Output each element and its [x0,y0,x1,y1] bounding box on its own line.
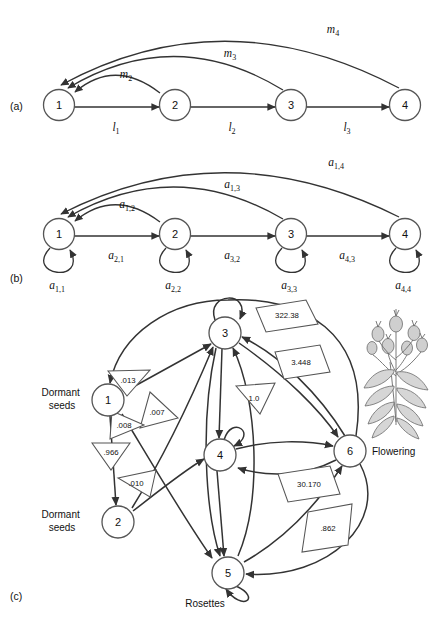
panel-c-node-4-label: 4 [217,449,223,461]
panel-c-node-6-label: 6 [347,445,353,457]
stage-label-flowering: Flowering [372,446,415,457]
flowering-plant-illustration [364,309,428,439]
stage-label-rosettes: Rosettes [185,598,224,609]
value-shape-010: .010 [118,470,156,497]
value-shape-30170: 30.170 [278,466,340,502]
stage-label-dormant-seeds-1: Dormant seeds [41,387,82,411]
panel-c-node-4[interactable]: 4 [204,439,236,471]
value-shape-32238: 322.38 [256,300,318,332]
panel-c-node-6[interactable]: 6 [334,435,366,467]
stage-label-dormant-seeds-2: Dormant seeds [41,509,82,533]
panel-c-node-3[interactable]: 3 [209,317,241,349]
value-label-32238: 322.38 [275,311,299,320]
panel-c-node-2[interactable]: 2 [102,506,134,538]
value-label-3448: 3.448 [291,358,311,367]
value-label-010: .010 [128,479,144,488]
value-label-10: 1.0 [249,394,261,403]
edge-c-4-to-5 [217,471,224,556]
value-label-007: .007 [149,408,164,417]
value-shape-862: .862 [302,504,352,552]
value-label-008: .008 [116,421,131,430]
panel-c-node-2-label: 2 [115,516,121,528]
value-label-862: .862 [320,524,335,533]
panel-c-node-5-label: 5 [225,567,231,579]
value-shape-10: 1.0 [236,383,275,414]
panel-c-node-1[interactable]: 1 [92,384,124,416]
value-shape-3448: 3.448 [275,345,330,379]
edge-c-3-to-4 [219,349,222,438]
panel-c-node-1-label: 1 [105,394,111,406]
value-label-30170: 30.170 [297,480,322,489]
edge-c-4-to-6 [236,442,333,449]
value-label-966: .966 [103,448,118,457]
value-shape-966: .966 [92,443,130,470]
value-shape-007: .007 [140,392,178,428]
panel-c: (c) .013 .007 .008 [0,0,444,620]
panel-c-label: (c) [10,590,22,602]
value-shape-008: .008 [110,411,144,439]
value-label-013: .013 [120,376,135,385]
panel-c-node-5[interactable]: 5 [212,557,244,589]
panel-c-node-3-label: 3 [222,327,228,339]
